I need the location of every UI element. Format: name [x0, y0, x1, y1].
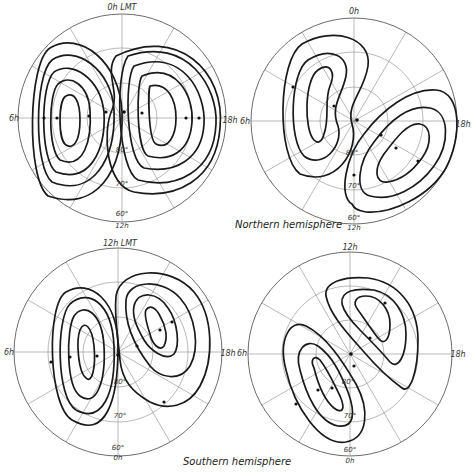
flow-dots: [294, 301, 386, 405]
lat-80: 80°: [116, 146, 128, 154]
lat-80: 80°: [342, 378, 354, 386]
lat-80: 80°: [346, 149, 358, 157]
panel-south-right: 12h 6h 18h 0h 80° 70° 60°: [237, 243, 466, 465]
label-bottom: 0h: [114, 454, 123, 462]
lat-60: 60°: [112, 444, 124, 452]
label-left: 6h: [9, 114, 19, 123]
label-top: 12h: [342, 243, 357, 252]
lat-70: 70°: [114, 412, 126, 420]
contours-right-cell: [107, 46, 220, 193]
label-left: 6h: [240, 117, 250, 126]
lat-60: 60°: [344, 446, 356, 454]
caption-northern: Northern hemisphere: [235, 219, 342, 230]
label-left: 6h: [237, 349, 247, 358]
contours-right-cell: [115, 273, 209, 406]
lat-70: 70°: [344, 412, 356, 420]
flow-dots: [49, 320, 173, 403]
label-bottom: 12h: [115, 222, 128, 230]
lat-70: 70°: [116, 180, 128, 188]
panel-north-right: 0h 6h 18h 12h 80° 70° 60°: [240, 7, 471, 232]
label-right: 18h: [450, 350, 465, 359]
lat-60: 60°: [348, 214, 360, 222]
label-right: 18h: [222, 116, 237, 125]
panel-north-left: 0h LMT 6h 18h 12h 80° 70° 60°: [9, 3, 238, 230]
lat-70: 70°: [348, 182, 360, 190]
label-bottom: 0h: [346, 457, 355, 465]
polar-diagrams: 0h LMT 6h 18h 12h 80° 70° 60°: [0, 0, 474, 472]
label-right: 18h: [455, 120, 470, 129]
caption-southern: Southern hemisphere: [183, 456, 291, 467]
label-bottom: 12h: [347, 224, 360, 232]
label-top: 0h: [349, 7, 359, 16]
lat-80: 80°: [114, 378, 126, 386]
label-left: 6h: [4, 348, 14, 357]
polar-grid: [251, 18, 457, 224]
lat-60: 60°: [116, 210, 128, 218]
label-top: 0h LMT: [108, 3, 138, 12]
label-right: 18h: [220, 349, 235, 358]
label-top: 12h LMT: [103, 239, 138, 248]
contours-left-cell: [52, 288, 118, 425]
panel-south-left: 12h LMT 6h 18h 0h 80° 70° 60°: [4, 239, 236, 462]
